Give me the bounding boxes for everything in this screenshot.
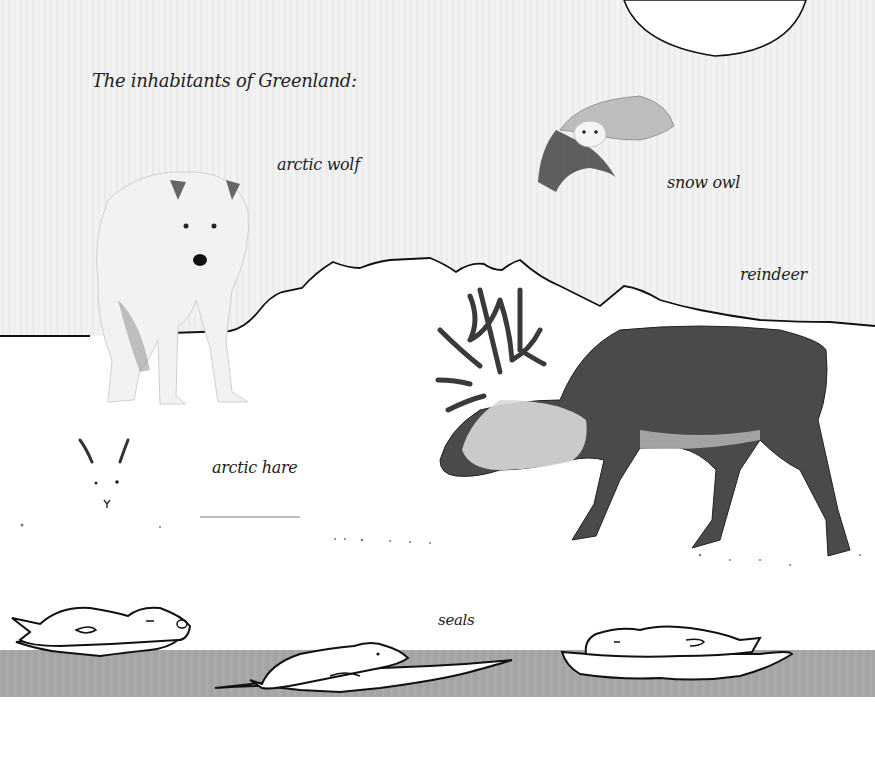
- label-seals: seals: [438, 611, 475, 629]
- label-snow-owl: snow owl: [667, 173, 740, 192]
- greenland-illustration-page: The inhabitants of Greenland: arctic wol…: [0, 0, 875, 760]
- seal-left-drawing: [12, 608, 190, 656]
- seals-drawing: [0, 0, 875, 760]
- label-arctic-wolf: arctic wolf: [277, 155, 360, 174]
- seal-middle-drawing: [215, 643, 512, 692]
- seal-right-drawing: [562, 626, 792, 679]
- label-arctic-hare: arctic hare: [212, 458, 297, 477]
- label-reindeer: reindeer: [740, 265, 807, 284]
- page-title: The inhabitants of Greenland:: [92, 70, 357, 91]
